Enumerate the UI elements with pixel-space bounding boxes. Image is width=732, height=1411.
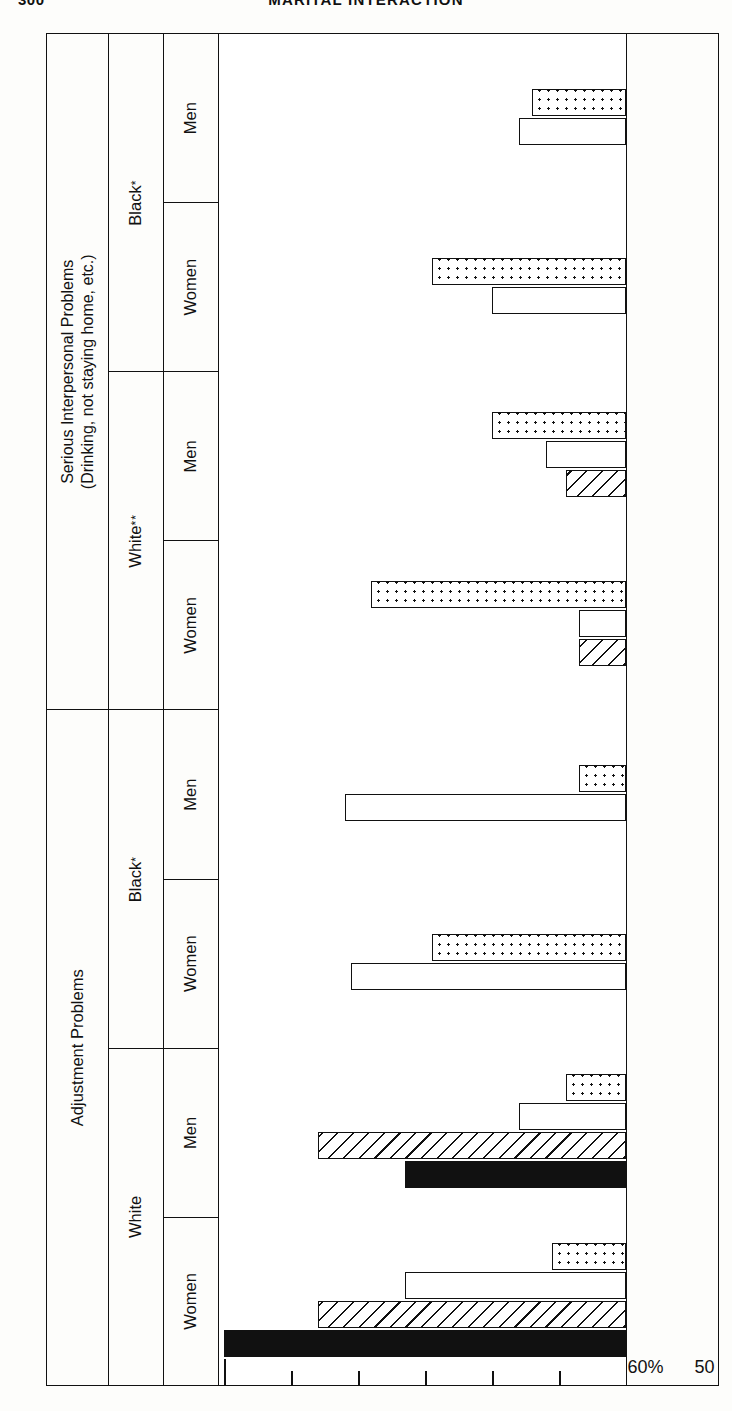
plot-area xyxy=(219,33,627,1386)
bar-group1-dotted xyxy=(566,1074,626,1101)
bar-group2-dotted xyxy=(432,934,626,961)
header-race-0: White xyxy=(109,1047,164,1385)
header-sex-3: Men xyxy=(164,709,219,878)
bar-group3-white-empty xyxy=(345,794,626,821)
bar-group1-solid-black xyxy=(405,1161,626,1188)
axis-tick-label-50: 50 xyxy=(695,1356,715,1377)
axis-tick-50 xyxy=(291,1371,293,1385)
axis-tick-60 xyxy=(224,1359,226,1385)
bar-group1-white-empty xyxy=(519,1103,626,1130)
header-sex-7: Men xyxy=(164,33,219,202)
figure: Adjustment ProblemsSerious Interpersonal… xyxy=(46,32,686,1380)
header-sex-1: Men xyxy=(164,1047,219,1216)
axis-tick-40 xyxy=(358,1371,360,1385)
axis-tick-20 xyxy=(492,1371,494,1385)
bar-group6-white-empty xyxy=(492,286,626,313)
header-race-2: White** xyxy=(109,371,164,709)
bar-group3-dotted xyxy=(579,765,626,792)
axis-tick-10 xyxy=(559,1371,561,1385)
bar-group2-white-empty xyxy=(351,963,626,990)
header-sex-5: Men xyxy=(164,371,219,540)
bar-group7-dotted xyxy=(532,88,626,115)
bar-group5-diagonal-hatch xyxy=(566,470,626,497)
bar-group1-diagonal-hatch xyxy=(318,1132,626,1159)
figure-rotation-wrapper: Adjustment ProblemsSerious Interpersonal… xyxy=(0,0,732,1411)
bar-group0-white-empty xyxy=(405,1272,626,1299)
header-sex-6: Women xyxy=(164,202,219,371)
header-problem-interpersonal: Serious Interpersonal Problems (Drinking… xyxy=(46,33,109,710)
header-sex-0: Women xyxy=(164,1216,219,1385)
header-sex-2: Women xyxy=(164,878,219,1047)
axis-tick-30 xyxy=(425,1371,427,1385)
bar-group5-white-empty xyxy=(546,441,626,468)
header-problem-adjustment: Adjustment Problems xyxy=(46,709,109,1386)
bar-group0-diagonal-hatch xyxy=(318,1301,626,1328)
bar-group4-white-empty xyxy=(579,610,626,637)
axis-tick-label-60: 60% xyxy=(628,1356,664,1377)
bar-group0-dotted xyxy=(552,1243,626,1270)
header-race-1: Black* xyxy=(109,709,164,1047)
bar-group5-dotted xyxy=(492,412,626,439)
bar-group6-dotted xyxy=(432,257,626,284)
bar-group7-white-empty xyxy=(519,117,626,144)
value-axis: 60%50403020100 xyxy=(627,33,719,1386)
bar-group4-dotted xyxy=(371,581,626,608)
bar-group0-solid-black xyxy=(224,1330,626,1357)
header-race-3: Black* xyxy=(109,33,164,371)
header-sex-4: Women xyxy=(164,540,219,709)
bar-group4-diagonal-hatch xyxy=(579,639,626,666)
